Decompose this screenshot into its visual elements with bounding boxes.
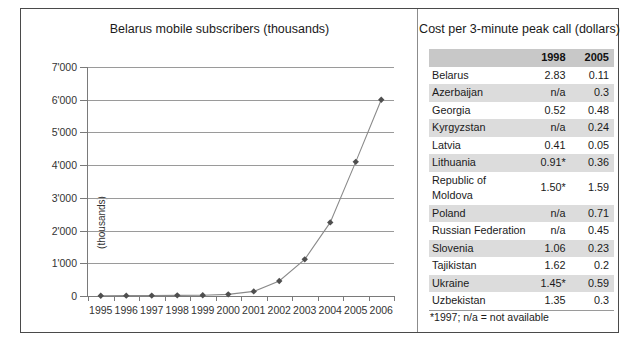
cell-2005: 0.23 (571, 240, 614, 258)
x-tick-label: 1998 (166, 304, 189, 316)
y-tick (80, 263, 88, 264)
cell-country: Tajikistan (429, 257, 527, 275)
table-row: Russian Federationn/a0.45 (429, 222, 614, 240)
cell-country: Belarus (429, 67, 527, 85)
x-tick (114, 296, 115, 301)
data-point-1998 (174, 292, 180, 298)
table-row: Kyrgyzstann/a0.24 (429, 119, 614, 137)
plot-area: (thousands) 01'0002'0003'0004'0005'0006'… (87, 67, 394, 297)
data-point-1996 (123, 292, 129, 298)
table-row: Tajikistan1.620.2 (429, 257, 614, 275)
cell-1998: 0.41 (527, 137, 570, 155)
column-header-2005: 2005 (571, 49, 614, 67)
x-tick-label: 1995 (89, 304, 112, 316)
data-point-2005 (353, 159, 359, 165)
data-point-1997 (149, 292, 155, 298)
cell-2005: 0.2 (571, 257, 614, 275)
table-row: Georgia0.520.48 (429, 102, 614, 120)
x-tick-label: 1999 (191, 304, 214, 316)
x-tick (165, 296, 166, 301)
y-tick (80, 231, 88, 232)
x-tick (241, 296, 242, 301)
cell-1998: 1.45* (527, 275, 570, 293)
cell-2005: 0.3 (571, 84, 614, 102)
column-header-1998: 1998 (527, 49, 570, 67)
table-header-row: 1998 2005 (429, 49, 614, 67)
x-tick (343, 296, 344, 301)
x-tick-label: 1997 (140, 304, 163, 316)
y-tick (80, 165, 88, 166)
y-tick-label: 3'000 (52, 192, 77, 204)
cell-country: Ukraine (429, 275, 527, 293)
cell-2005: 0.11 (571, 67, 614, 85)
cell-country: Latvia (429, 137, 527, 155)
x-tick (190, 296, 191, 301)
table-row: Lithuania0.91*0.36 (429, 154, 614, 172)
cell-2005: 1.59 (571, 172, 614, 205)
cell-1998: n/a (527, 222, 570, 240)
figure-frame: Belarus mobile subscribers (thousands) (… (20, 8, 619, 333)
table-row: Polandn/a0.71 (429, 205, 614, 223)
cell-2005: 0.24 (571, 119, 614, 137)
cell-1998: n/a (527, 205, 570, 223)
cell-country: Georgia (429, 102, 527, 120)
x-tick (394, 296, 395, 301)
cell-country: Kyrgyzstan (429, 119, 527, 137)
data-point-1995 (98, 293, 104, 299)
table-row: Latvia0.410.05 (429, 137, 614, 155)
cell-country: Uzbekistan (429, 292, 527, 310)
x-tick (267, 296, 268, 301)
cell-2005: 0.48 (571, 102, 614, 120)
table-row: Republic of Moldova1.50*1.59 (429, 172, 614, 205)
x-tick (292, 296, 293, 301)
cell-country: Poland (429, 205, 527, 223)
chart-panel: Belarus mobile subscribers (thousands) (… (21, 9, 418, 332)
cell-1998: n/a (527, 84, 570, 102)
cell-2005: 0.45 (571, 222, 614, 240)
y-tick (80, 296, 88, 297)
y-tick-label: 4'000 (52, 159, 77, 171)
x-tick-label: 2003 (293, 304, 316, 316)
chart-title: Belarus mobile subscribers (thousands) (21, 22, 418, 36)
y-tick-label: 2'000 (52, 225, 77, 237)
x-tick (88, 296, 89, 301)
x-tick (318, 296, 319, 301)
x-tick (369, 296, 370, 301)
data-point-2006 (378, 97, 384, 103)
x-tick-label: 2001 (242, 304, 265, 316)
y-tick-label: 1'000 (52, 257, 77, 269)
table-body: Belarus2.830.11Azerbaijann/a0.3Georgia0.… (429, 67, 614, 311)
column-header-country (429, 49, 527, 67)
cell-2005: 0.05 (571, 137, 614, 155)
cell-2005: 0.71 (571, 205, 614, 223)
data-line (101, 100, 382, 296)
data-point-2004 (327, 219, 333, 225)
cell-1998: 0.52 (527, 102, 570, 120)
table-row: Uzbekistan1.350.3 (429, 292, 614, 310)
data-point-2000 (225, 291, 231, 297)
cell-2005: 0.59 (571, 275, 614, 293)
x-tick-label: 2006 (370, 304, 393, 316)
cell-country: Azerbaijan (429, 84, 527, 102)
y-tick (80, 100, 88, 101)
table-title: Cost per 3-minute peak call (dollars) (419, 22, 620, 36)
cell-country: Slovenia (429, 240, 527, 258)
cell-1998: 1.62 (527, 257, 570, 275)
y-tick-label: 6'000 (52, 94, 77, 106)
table-row: Ukraine1.45*0.59 (429, 275, 614, 293)
y-tick (80, 67, 88, 68)
cost-table: 1998 2005 Belarus2.830.11Azerbaijann/a0.… (429, 49, 614, 311)
cell-2005: 0.36 (571, 154, 614, 172)
table-row: Slovenia1.060.23 (429, 240, 614, 258)
x-tick-label: 2005 (344, 304, 367, 316)
table-footnote: *1997; n/a = not available (430, 311, 549, 323)
y-tick (80, 132, 88, 133)
y-tick-label: 0 (71, 290, 77, 302)
table-row: Belarus2.830.11 (429, 67, 614, 85)
x-tick-label: 2004 (319, 304, 342, 316)
x-tick-label: 2000 (217, 304, 240, 316)
table-row: Azerbaijann/a0.3 (429, 84, 614, 102)
cell-1998: n/a (527, 119, 570, 137)
cell-country: Lithuania (429, 154, 527, 172)
cell-1998: 0.91* (527, 154, 570, 172)
